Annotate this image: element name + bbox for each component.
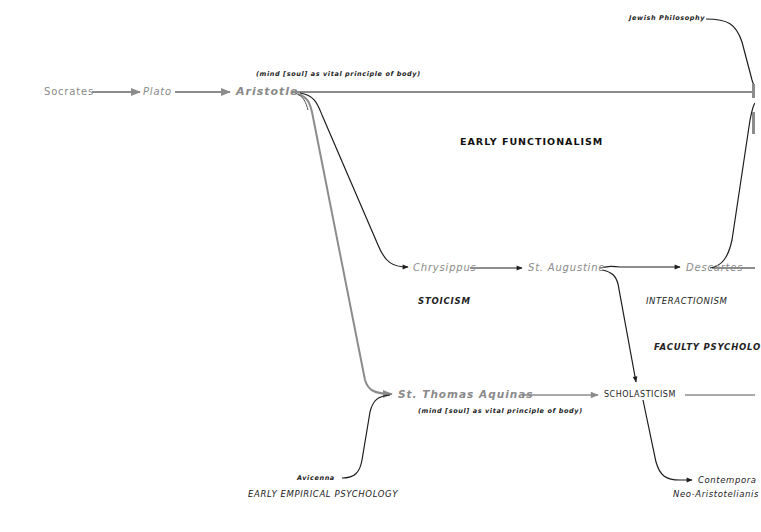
node-contemporary: Contempora <box>698 476 757 485</box>
edge-avicenna-aquinas <box>342 395 390 478</box>
node-descartes: Descartes <box>686 263 743 273</box>
school-stoicism: STOICISM <box>418 297 471 306</box>
school-interactionism: INTERACTIONISM <box>646 297 727 306</box>
edge-augustine-scholasticism <box>602 270 636 382</box>
aristotle-note: (mind [soul] as vital principle of body) <box>256 71 421 78</box>
node-st-augustine: St. Augustine <box>528 263 605 273</box>
right-edge-marker-mid <box>752 112 755 134</box>
school-early-empirical-psychology: EARLY EMPIRICAL PSYCHOLOGY <box>248 490 398 499</box>
edge-descartes-up <box>710 103 755 268</box>
aquinas-note: (mind [soul] as vital principle of body) <box>418 408 583 415</box>
school-faculty-psychology: FACULTY PSYCHOLO <box>654 343 761 352</box>
node-jewish-philosophy: Jewish Philosophy <box>629 15 705 22</box>
node-st-thomas-aquinas: St. Thomas Aquinas <box>398 389 534 400</box>
edge-augustine-descartes <box>600 266 680 268</box>
edge-scholasticism-contemporary <box>643 400 692 480</box>
node-neo-aristotelianism: Neo-Aristotelianis <box>673 490 759 499</box>
node-chrysippus: Chrysippus <box>413 263 477 273</box>
school-early-functionalism: EARLY FUNCTIONALISM <box>460 137 603 147</box>
node-aristotle: Aristotle <box>236 86 299 97</box>
node-scholasticism: SCHOLASTICISM <box>604 391 676 399</box>
node-plato: Plato <box>143 87 172 97</box>
right-edge-marker-top <box>752 84 755 98</box>
edge-jewish-philosophy <box>706 19 755 90</box>
node-avicenna: Avicenna <box>297 475 335 482</box>
edge-aristotle-chrysippus <box>300 93 408 267</box>
node-socrates: Socrates <box>44 87 94 97</box>
